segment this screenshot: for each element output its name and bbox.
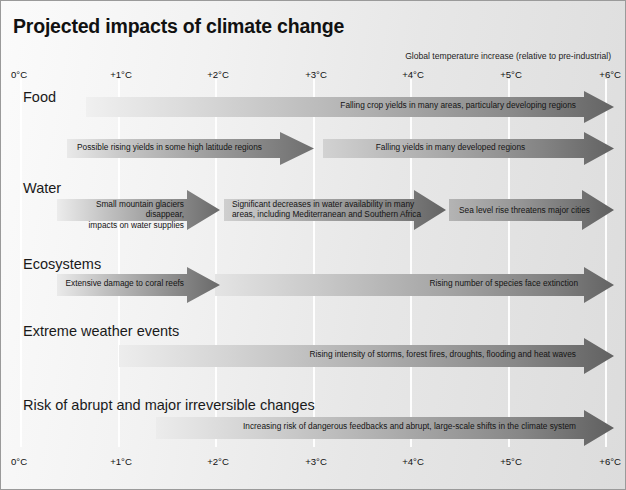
arrow-shape — [156, 410, 614, 446]
arrow-shape — [449, 190, 614, 230]
arrow-shape — [224, 190, 446, 230]
tick-bottom-3c: +3°C — [305, 456, 327, 467]
arrow-shape — [57, 190, 220, 230]
category-heading-extreme-weather: Extreme weather events — [23, 323, 179, 339]
tick-top-2c: +2°C — [207, 69, 229, 80]
arrow-shape — [57, 267, 220, 303]
tick-top-4c: +4°C — [402, 69, 424, 80]
tick-bottom-5c: +5°C — [500, 456, 522, 467]
tick-top-0c: 0°C — [11, 69, 27, 80]
tick-bottom-4c: +4°C — [402, 456, 424, 467]
axis-top: 0°C +1°C +2°C +3°C +4°C +5°C +6°C — [1, 69, 625, 83]
page-title: Projected impacts of climate change — [13, 15, 344, 38]
arrow-shape — [86, 91, 614, 123]
climate-impacts-figure: Projected impacts of climate change Glob… — [0, 0, 626, 490]
arrow-water-glaciers: Small mountain glaciers disappear, impac… — [57, 190, 220, 230]
arrow-eco-species-extinction: Rising number of species face extinction — [215, 267, 614, 303]
category-heading-food: Food — [23, 89, 56, 105]
tick-bottom-1c: +1°C — [110, 456, 132, 467]
axis-bottom: 0°C +1°C +2°C +3°C +4°C +5°C +6°C — [1, 456, 625, 470]
tick-top-1c: +1°C — [110, 69, 132, 80]
arrow-shape — [119, 338, 614, 374]
arrow-food-falling-developed: Falling yields in many developed regions — [323, 132, 614, 165]
tick-bottom-0c: 0°C — [11, 456, 27, 467]
tick-bottom-2c: +2°C — [207, 456, 229, 467]
tick-top-3c: +3°C — [305, 69, 327, 80]
tick-top-6c: +6°C — [599, 69, 621, 80]
tick-top-5c: +5°C — [500, 69, 522, 80]
arrow-shape — [215, 267, 614, 303]
category-heading-water: Water — [23, 180, 61, 196]
arrow-food-rising-yields: Possible rising yields in some high lati… — [67, 132, 314, 165]
arrow-eco-coral-reefs: Extensive damage to coral reefs — [57, 267, 220, 303]
arrow-shape — [67, 132, 314, 165]
arrow-shape — [323, 132, 614, 165]
arrow-water-decreases: Significant decreases in water availabil… — [224, 190, 446, 230]
gridline-0c — [20, 79, 22, 447]
arrow-food-falling-crop-yields: Falling crop yields in many areas, parti… — [86, 91, 614, 123]
arrow-water-sea-level: Sea level rise threatens major cities — [449, 190, 614, 230]
arrow-risk-feedbacks: Increasing risk of dangerous feedbacks a… — [156, 410, 614, 446]
tick-bottom-6c: +6°C — [599, 456, 621, 467]
arrow-extreme-storms: Rising intensity of storms, forest fires… — [119, 338, 614, 374]
axis-caption: Global temperature increase (relative to… — [405, 51, 611, 61]
